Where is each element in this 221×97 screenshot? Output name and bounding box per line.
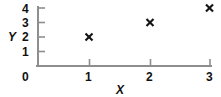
scatter-plot-canvas: [0, 0, 221, 97]
x-axis-title: X: [116, 84, 124, 96]
chart-figure: 4 3 2 1 0 1 2 3 Y X: [0, 0, 221, 97]
y-tick-label-1: 1: [22, 46, 29, 58]
y-tick-label-3: 3: [22, 17, 29, 29]
y-tick-label-4: 4: [22, 3, 29, 15]
x-tick-label-2: 2: [146, 71, 153, 83]
y-tick-label-2: 2: [22, 31, 29, 43]
y-axis-title: Y: [8, 31, 16, 43]
data-point-marker: [206, 5, 213, 12]
x-tick-label-3: 3: [206, 71, 213, 83]
data-point-marker: [86, 34, 93, 41]
x-tick-label-1: 1: [85, 71, 92, 83]
data-point-marker: [147, 19, 154, 26]
y-tick-label-0: 0: [22, 71, 29, 83]
